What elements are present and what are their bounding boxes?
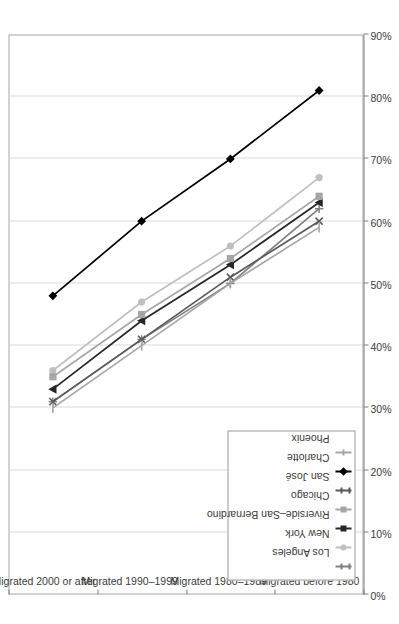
value-tick — [363, 406, 368, 407]
value-tick-label: 70% — [370, 153, 391, 165]
legend-marker-triangle — [340, 526, 346, 532]
value-tick — [363, 531, 368, 532]
series-line — [52, 90, 318, 295]
value-tick — [363, 33, 368, 34]
legend-label-chicago: Chicago — [290, 489, 329, 501]
data-point-diamond — [48, 291, 57, 300]
value-tick-label: 10% — [370, 527, 391, 539]
chart-page: 0%10%20%30%40%50%60%70%80%90% Migrated 2… — [0, 0, 399, 624]
legend-label-charlotte: Charlotte — [286, 451, 329, 463]
value-tick — [363, 282, 368, 283]
category-tick — [8, 589, 9, 594]
value-tick-label: 0% — [370, 589, 385, 601]
series-phoenix — [52, 222, 318, 413]
value-tick — [363, 157, 368, 158]
value-axis-line — [363, 34, 364, 594]
legend-marker-cross-plus — [340, 564, 350, 570]
value-tick — [363, 95, 368, 96]
legend-swatch-new-york — [335, 542, 351, 552]
value-tick-label: 80% — [370, 91, 391, 103]
legend-swatch-san-jos- — [335, 485, 351, 495]
category-tick — [186, 589, 187, 594]
category-label: Migrated 1990–1999 — [81, 574, 177, 586]
value-tick-label: 30% — [370, 402, 391, 414]
legend-marker-x-cross — [340, 488, 350, 494]
legend-label-phoenix: Phoenix — [291, 432, 329, 444]
series-charlotte — [48, 86, 323, 300]
legend-marker-circle — [340, 545, 346, 551]
value-tick-label: 40% — [370, 340, 391, 352]
value-tick-label: 50% — [370, 278, 391, 290]
value-tick-label: 60% — [370, 216, 391, 228]
series-line — [52, 196, 318, 376]
category-tick — [97, 589, 98, 594]
data-point-square — [315, 192, 322, 199]
series-line — [52, 202, 318, 389]
value-tick — [363, 220, 368, 221]
data-point-square — [138, 310, 145, 317]
value-tick-label: 90% — [370, 29, 391, 41]
series-line — [52, 208, 318, 401]
series-new-york — [49, 174, 322, 374]
series-line — [52, 227, 318, 407]
legend-swatch-chicago — [335, 504, 351, 514]
series-chicago — [49, 192, 322, 380]
legend-marker-diamond — [339, 467, 347, 475]
data-point-circle — [49, 366, 56, 373]
legend-marker-dash — [342, 450, 344, 456]
legend-swatch-los-angeles — [335, 561, 351, 571]
legend-swatch-phoenix — [335, 447, 351, 457]
data-point-triangle — [48, 384, 56, 393]
legend-label-los-angeles: Los Angeles — [272, 546, 329, 558]
value-tick — [363, 469, 368, 470]
value-tick — [363, 344, 368, 345]
legend-label-new-york: New York — [285, 527, 329, 539]
legend-marker-square — [340, 507, 346, 513]
data-point-square — [226, 254, 233, 261]
category-tick — [274, 589, 275, 594]
series-riverside-san-bernardino — [48, 197, 322, 393]
data-point-square — [49, 373, 56, 380]
legend-label-san-jos-: San José — [285, 470, 329, 482]
series-line — [52, 177, 318, 370]
legend-swatch-riverside-san-bernardino — [335, 523, 351, 533]
legend-label-riverside-san-bernardino: Riverside–San Bernardino — [206, 508, 329, 520]
legend-swatch-charlotte — [335, 466, 351, 476]
value-tick-label: 20% — [370, 465, 391, 477]
category-tick — [363, 589, 364, 594]
chart-rotated-canvas: 0%10%20%30%40%50%60%70%80%90% Migrated 2… — [0, 0, 399, 624]
